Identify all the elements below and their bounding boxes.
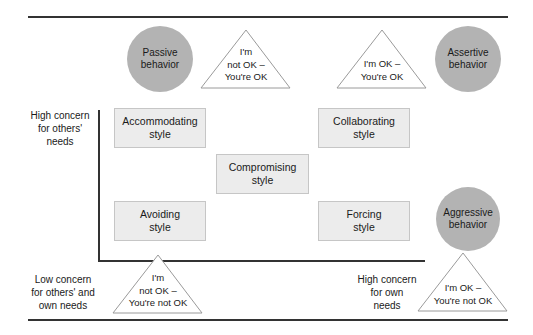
box-accommodating-style: Accommodating style [114,108,206,148]
box-compromising-style: Compromising style [216,154,309,194]
box-avoiding-style: Avoiding style [114,201,206,241]
box-forcing-style: Forcing style [318,201,410,241]
triangle-not-ok-you-ok: I'm not OK – You're OK [200,29,292,90]
top-rule [28,16,508,18]
circle-aggressive-behavior: Aggressive behavior [436,187,500,251]
box-collaborating-style: Collaborating style [318,108,410,148]
label-low-concern-both: Low concern for others' and own needs [22,273,104,312]
circle-assertive-behavior: Assertive behavior [435,26,501,92]
circle-passive-behavior: Passive behavior [127,26,193,92]
triangle-text: I'm not OK – You're OK [200,46,292,84]
bottom-rule [28,319,508,321]
triangle-text: I'm OK – You're not OK [417,282,509,307]
triangle-text: I'm not OK – You're not OK [112,272,204,310]
triangle-not-ok-you-not-ok: I'm not OK – You're not OK [112,254,204,315]
triangle-text: I'm OK – You're OK [336,58,428,83]
triangle-ok-you-ok: I'm OK – You're OK [336,29,428,90]
triangle-ok-you-not-ok: I'm OK – You're not OK [417,252,509,313]
label-high-concern-own: High concern for own needs [352,273,422,312]
label-high-concern-others: High concern for others' needs [20,109,100,148]
